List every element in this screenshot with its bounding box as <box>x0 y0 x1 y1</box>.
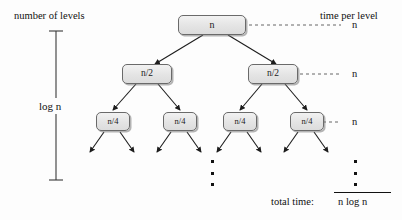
ellipsis-dot <box>211 183 214 186</box>
edge-root-to-right-child <box>228 35 276 64</box>
edge-l2left-to-child-b <box>158 84 180 110</box>
tree-node-level3-c[interactable]: n/4 <box>223 112 257 131</box>
tree-node-level3-d-label: n/4 <box>302 117 313 126</box>
edge-root-to-left-child <box>155 35 203 64</box>
total-time-rule <box>334 192 391 193</box>
total-time-value: n log n <box>338 196 367 207</box>
tree-node-root[interactable]: n <box>178 15 246 35</box>
ellipsis-dot <box>211 160 214 163</box>
tree-node-level3-b-label: n/4 <box>175 117 186 126</box>
edge-leaf-a1 <box>90 132 104 152</box>
tree-node-root-label: n <box>210 20 215 30</box>
log-n-depth-label: log n <box>35 98 65 114</box>
edge-l2right-to-child-d <box>285 84 307 110</box>
time-level2-value: n <box>352 68 357 79</box>
recursion-tree-diagram: number of levels time per level log n n … <box>0 0 402 220</box>
number-of-levels-title: number of levels <box>14 10 85 21</box>
ellipsis-dot <box>211 172 214 175</box>
ellipsis-dot <box>354 172 357 175</box>
tree-vertical-ellipsis <box>211 160 214 186</box>
time-level1-value: n <box>352 19 357 30</box>
time-level3-value: n <box>352 116 357 127</box>
time-column-ellipsis <box>354 160 357 186</box>
tree-node-level2-left[interactable]: n/2 <box>122 64 172 84</box>
ellipsis-dot <box>354 160 357 163</box>
edge-leaf-b2 <box>187 132 201 152</box>
ellipsis-dot <box>354 183 357 186</box>
tree-node-level2-left-label: n/2 <box>141 69 153 79</box>
edge-leaf-d2 <box>314 132 328 152</box>
tree-node-level3-c-label: n/4 <box>235 117 246 126</box>
edge-l2left-to-child-a <box>113 84 136 110</box>
tree-node-level3-a-label: n/4 <box>108 117 119 126</box>
edge-l2right-to-child-c <box>240 84 262 110</box>
time-per-level-title: time per level <box>320 10 378 21</box>
edge-leaf-c1 <box>217 132 231 152</box>
tree-node-level2-right-label: n/2 <box>267 69 279 79</box>
edge-leaf-d1 <box>284 132 298 152</box>
total-time-label: total time: <box>271 196 314 207</box>
tree-node-level3-d[interactable]: n/4 <box>290 112 324 131</box>
tree-node-level2-right[interactable]: n/2 <box>248 64 298 84</box>
tree-node-level3-b[interactable]: n/4 <box>163 112 197 131</box>
edge-leaf-b1 <box>157 132 171 152</box>
edge-leaf-c2 <box>247 132 261 152</box>
edge-leaf-a2 <box>120 132 134 152</box>
tree-node-level3-a[interactable]: n/4 <box>96 112 130 131</box>
